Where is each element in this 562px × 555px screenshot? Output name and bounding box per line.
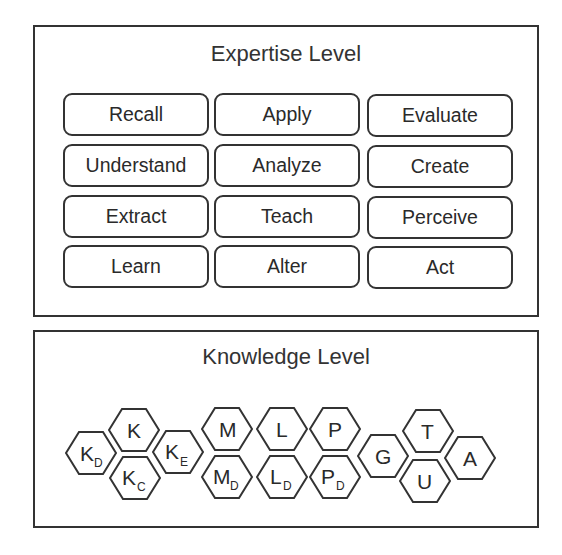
expertise-item-recall: Recall xyxy=(63,93,209,136)
expertise-item-learn: Learn xyxy=(63,245,209,288)
expertise-item-understand: Understand xyxy=(63,144,209,187)
knowledge-level-title: Knowledge Level xyxy=(35,344,537,370)
expertise-item-evaluate: Evaluate xyxy=(367,94,513,137)
expertise-item-alter: Alter xyxy=(214,245,360,288)
knowledge-level-panel: Knowledge Level xyxy=(33,330,539,528)
expertise-item-analyze: Analyze xyxy=(214,144,360,187)
expertise-item-perceive: Perceive xyxy=(367,196,513,239)
expertise-item-extract: Extract xyxy=(63,195,209,238)
expertise-level-title: Expertise Level xyxy=(35,41,537,67)
expertise-item-create: Create xyxy=(367,145,513,188)
expertise-item-teach: Teach xyxy=(214,195,360,238)
expertise-item-act: Act xyxy=(367,246,513,289)
expertise-item-apply: Apply xyxy=(214,93,360,136)
